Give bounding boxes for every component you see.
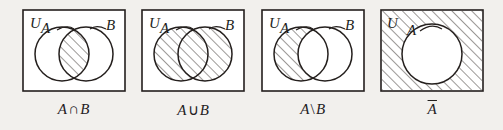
universe-label: U: [387, 15, 399, 31]
caption-operator: ∪: [187, 102, 200, 118]
venn-panel-union: U A B A∪B: [137, 0, 251, 130]
caption-operand-left: A: [300, 101, 309, 117]
venn-diagram-figure: U A B A∩B: [0, 0, 503, 130]
set-b-label: B: [345, 17, 354, 33]
venn-box-complement: U A: [380, 9, 484, 92]
panel-caption-intersection: A∩B: [58, 101, 90, 118]
set-a-label: A: [40, 20, 51, 36]
caption-operand-left: A: [177, 102, 186, 118]
panel-caption-difference: A\B: [300, 101, 325, 118]
set-a-label: A: [279, 20, 290, 36]
caption-operand-right: B: [80, 101, 89, 117]
caption-operator: ∩: [67, 101, 80, 117]
caption-operand-left: A: [58, 101, 67, 117]
caption-operand-left: A: [427, 101, 438, 117]
set-a-label: A: [406, 22, 417, 38]
set-b-label: B: [106, 17, 115, 33]
caption-operand-right: B: [316, 101, 325, 117]
caption-operand-right: B: [200, 102, 209, 118]
venn-panel-difference: U A B A\B: [256, 0, 370, 130]
set-b-label: B: [225, 17, 234, 33]
panel-caption-union: A∪B: [177, 101, 209, 119]
venn-box-intersection: U A B: [22, 9, 126, 92]
venn-box-union: U A B: [141, 9, 245, 92]
panel-caption-complement: A: [427, 101, 438, 118]
venn-box-difference: U A B: [261, 9, 365, 92]
venn-panel-intersection: U A B A∩B: [17, 0, 131, 130]
venn-panel-complement: U A A: [376, 0, 490, 130]
set-a-label: A: [159, 20, 170, 36]
